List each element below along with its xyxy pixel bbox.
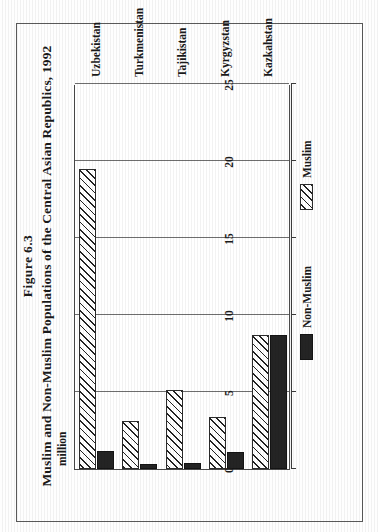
bar-nonmuslim-uzbekistan (97, 451, 114, 469)
bar-nonmuslim-turkmenistan (140, 464, 157, 469)
rotated-figure-canvas: Figure 6.3 Muslim and Non-Muslim Populat… (0, 0, 378, 532)
bar-muslim-turkmenistan (122, 421, 139, 469)
category-label-kazkahstan: Kazkahstan (262, 18, 274, 77)
solid-black-swatch (300, 334, 313, 360)
tick-label-20: 20 (223, 156, 235, 168)
figure-page: Figure 6.3 Muslim and Non-Muslim Populat… (0, 0, 378, 532)
bar-muslim-tajikistan (166, 390, 183, 469)
tick-label-5: 5 (223, 390, 235, 396)
legend-item-muslim: Muslim (300, 140, 313, 210)
gridline-25 (75, 83, 289, 84)
x-axis-line (291, 84, 292, 469)
gridline-15 (75, 237, 289, 238)
tick-label-10: 10 (223, 310, 235, 322)
bar-nonmuslim-kazkahstan (270, 335, 287, 469)
bar-muslim-kyrgyzstan (209, 417, 226, 469)
tick-label-15: 15 (223, 233, 235, 245)
gridline-10 (75, 314, 289, 315)
figure-title: Muslim and Non-Muslim Populations of the… (39, 0, 55, 532)
figure-number: Figure 6.3 (20, 0, 36, 532)
unit-label: million (56, 431, 68, 466)
bar-nonmuslim-tajikistan (184, 463, 201, 469)
category-label-tajikistan: Tajikistan (176, 28, 188, 77)
gridline-20 (75, 160, 289, 161)
plot-area (74, 85, 290, 470)
bar-muslim-uzbekistan (79, 169, 96, 469)
tick-label-25: 25 (223, 79, 235, 91)
legend-label-non-muslim: Non-Muslim (301, 266, 313, 328)
bar-muslim-kazkahstan (252, 335, 269, 469)
category-label-turkmenistan: Turkmenistan (133, 8, 145, 77)
category-label-kyrgyzstan: Kyrgyzstan (219, 20, 231, 77)
hatched-swatch (300, 184, 313, 210)
legend-label-muslim: Muslim (301, 140, 313, 178)
category-label-uzbekistan: Uzbekistan (90, 22, 102, 77)
tick-label-0: 0 (223, 467, 235, 473)
legend-item-non-muslim: Non-Muslim (300, 266, 313, 360)
